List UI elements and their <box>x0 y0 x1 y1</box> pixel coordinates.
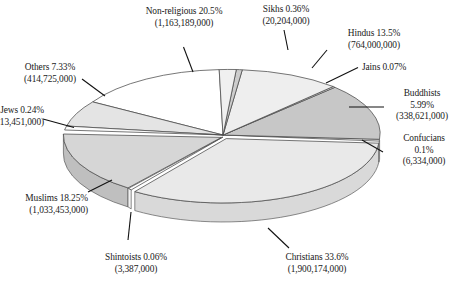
label-confucians-population: (6,334,000) <box>384 156 464 168</box>
leader-line-christians <box>268 228 289 248</box>
label-jains: Jains 0.07% <box>362 62 462 74</box>
label-christians-population: (1,900,174,000) <box>252 264 382 276</box>
label-hindus-population: (764,000,000) <box>316 40 432 52</box>
label-christians: Christians 33.6% (1,900,174,000) <box>252 252 382 275</box>
label-jains-percent: Jains 0.07% <box>362 62 462 74</box>
label-sikhs-percent: Sikhs 0.36% <box>234 4 338 16</box>
label-jews-percent: Jews 0.24% <box>0 105 44 117</box>
leader-line-sikhs <box>284 30 288 50</box>
label-confucians: Confucians 0.1% (6,334,000) <box>384 133 464 168</box>
label-jews-population: (13,451,000) <box>0 117 44 129</box>
side-wall-shintoists <box>128 188 131 209</box>
label-muslims: Muslims 18.25% (1,033,453,000) <box>0 193 88 216</box>
label-shintoists-percent: Shintoists 0.06% <box>68 252 204 264</box>
label-muslims-population: (1,033,453,000) <box>0 205 88 217</box>
pie-chart-figure: Non-religious 20.5% (1,163,189,000) Sikh… <box>0 0 464 285</box>
label-hindus: Hindus 13.5% (764,000,000) <box>316 28 432 51</box>
label-sikhs: Sikhs 0.36% (20,204,000) <box>234 4 338 27</box>
leader-line-nonreligious <box>184 47 194 72</box>
label-shintoists: Shintoists 0.06% (3,387,000) <box>68 252 204 275</box>
label-confucians-percent: 0.1% <box>384 145 464 157</box>
label-christians-percent: Christians 33.6% <box>252 252 382 264</box>
label-buddhists-population: (338,621,000) <box>380 111 464 123</box>
leader-line-hindus <box>312 50 327 68</box>
leader-line-jains <box>326 68 358 84</box>
label-others: Others 7.33% (414,725,000) <box>2 62 98 85</box>
label-confucians-name: Confucians <box>384 133 464 145</box>
label-sikhs-population: (20,204,000) <box>234 16 338 28</box>
label-buddhists-percent: 5.99% <box>380 100 464 112</box>
label-shintoists-population: (3,387,000) <box>68 264 204 276</box>
label-others-percent: Others 7.33% <box>2 62 98 74</box>
label-hindus-percent: Hindus 13.5% <box>316 28 432 40</box>
label-buddhists: Buddhists 5.99% (338,621,000) <box>380 88 464 123</box>
label-jews: Jews 0.24% (13,451,000) <box>0 105 44 128</box>
leader-line-shintoists <box>128 212 131 240</box>
label-others-population: (414,725,000) <box>2 74 98 86</box>
label-buddhists-name: Buddhists <box>380 88 464 100</box>
label-muslims-percent: Muslims 18.25% <box>0 193 88 205</box>
